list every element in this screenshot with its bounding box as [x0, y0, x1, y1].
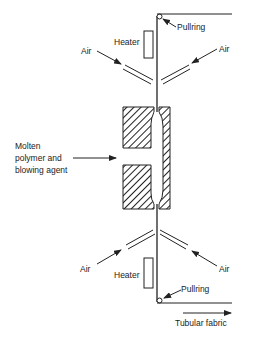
heater-top-label: Heater: [114, 37, 140, 47]
air-ring-bottom-right: [160, 230, 188, 249]
pullring-top-label: Pullring: [177, 22, 206, 32]
air-top-right-label: Air: [219, 44, 230, 54]
air-bottom-right-label: Air: [219, 264, 230, 274]
heater-bottom: [144, 258, 153, 288]
pullring-bottom-label: Pullring: [181, 284, 210, 294]
die-lower-left-block: [123, 165, 154, 209]
feed-label-line2: polymer and: [15, 153, 62, 163]
die-channel: [155, 112, 159, 204]
pullring-bottom-pointer: [164, 290, 181, 298]
output-label: Tubular fabric: [175, 318, 227, 328]
air-top-right-arrow: [192, 49, 217, 63]
blown-film-diagram: Pullring Heater Air Air Molten polymer a…: [0, 0, 261, 341]
air-ring-bottom-left: [126, 230, 155, 249]
heater-bottom-label: Heater: [114, 270, 140, 280]
feed-label-line1: Molten: [15, 141, 41, 151]
die-upper-left-block: [123, 107, 154, 148]
pullring-top-pointer: [163, 19, 176, 27]
heater-top: [144, 31, 153, 58]
air-bottom-right-arrow: [192, 251, 217, 266]
die-right-mandrel: [159, 107, 170, 209]
feed-label-line3: blowing agent: [15, 165, 68, 175]
air-ring-top-right: [161, 65, 190, 84]
air-top-left-label: Air: [81, 46, 92, 56]
air-bottom-left-label: Air: [80, 264, 91, 274]
air-ring-top-left: [123, 65, 153, 84]
air-top-left-arrow: [97, 51, 121, 64]
pullring-top-icon: [157, 14, 162, 19]
pullring-bottom-icon: [157, 298, 162, 303]
air-bottom-left-arrow: [97, 250, 121, 264]
